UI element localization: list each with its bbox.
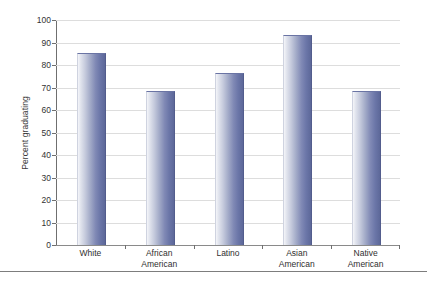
bar-series xyxy=(56,20,400,245)
x-label-line1: Native xyxy=(348,248,384,259)
bar-chart-figure: Percent graduating 010203040506070809010… xyxy=(0,0,427,283)
x-axis-label-african-american: AfricanAmerican xyxy=(141,248,177,269)
x-label-line1: White xyxy=(80,248,102,259)
x-axis-label-latino: Latino xyxy=(216,248,239,259)
bar-native-american xyxy=(352,91,381,245)
bar-white xyxy=(77,53,106,245)
x-axis-labels: WhiteAfricanAmericanLatinoAsianAmericanN… xyxy=(56,248,400,280)
x-label-line2: American xyxy=(279,259,315,270)
y-axis-title-label: Percent graduating xyxy=(20,96,30,170)
x-label-line2: American xyxy=(348,259,384,270)
y-tick-label-0: 0 xyxy=(46,240,51,250)
bar-african-american xyxy=(146,91,175,245)
x-axis-label-white: White xyxy=(80,248,102,259)
bar-asian-american xyxy=(283,35,312,245)
y-tick-label-90: 90 xyxy=(42,38,51,48)
page-divider-rule xyxy=(0,271,427,272)
x-axis-label-asian-american: AsianAmerican xyxy=(279,248,315,269)
y-tick-label-100: 100 xyxy=(37,15,51,25)
y-tick-label-60: 60 xyxy=(42,105,51,115)
y-axis-title: Percent graduating xyxy=(18,20,32,245)
x-label-line1: Asian xyxy=(279,248,315,259)
y-tick-label-30: 30 xyxy=(42,173,51,183)
y-tick-label-80: 80 xyxy=(42,60,51,70)
x-axis-label-native-american: NativeAmerican xyxy=(348,248,384,269)
y-tick-label-10: 10 xyxy=(42,218,51,228)
y-tick-label-40: 40 xyxy=(42,150,51,160)
x-label-line1: African xyxy=(141,248,177,259)
y-tick-label-20: 20 xyxy=(42,195,51,205)
y-tick-label-70: 70 xyxy=(42,83,51,93)
x-label-line1: Latino xyxy=(216,248,239,259)
x-label-line2: American xyxy=(141,259,177,270)
y-tick-label-50: 50 xyxy=(42,128,51,138)
plot-area: 0102030405060708090100 xyxy=(56,20,400,245)
bar-latino xyxy=(215,73,244,245)
